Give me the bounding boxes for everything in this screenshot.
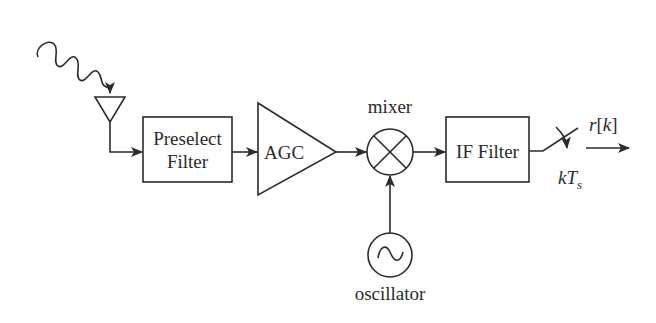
oscillator-label: oscillator	[355, 283, 426, 304]
agc-label: AGC	[264, 142, 304, 163]
block-diagram: Preselect Filter AGC mixer oscillator IF…	[0, 0, 656, 323]
if-filter-block: IF Filter	[446, 117, 529, 182]
mixer-block: mixer	[367, 96, 413, 175]
mixer-label: mixer	[368, 96, 413, 117]
sample-time-label: kTs	[558, 167, 582, 192]
sampler-switch-icon	[529, 127, 578, 151]
if-filter-label: IF Filter	[456, 141, 519, 162]
preselect-filter-label-2: Filter	[167, 151, 209, 172]
output-label: r[k]	[589, 114, 618, 135]
oscillator-block: oscillator	[355, 233, 426, 304]
preselect-filter-label-1: Preselect	[153, 128, 222, 149]
antenna-icon	[95, 97, 142, 152]
preselect-filter-block: Preselect Filter	[143, 117, 232, 182]
rf-wave-icon	[37, 42, 110, 93]
agc-amplifier-block: AGC	[258, 103, 336, 195]
